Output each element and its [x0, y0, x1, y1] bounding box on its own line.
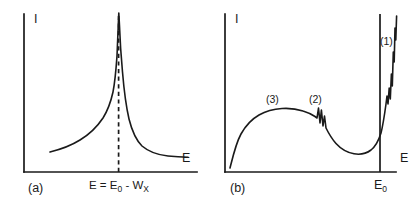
- panel-b-feature-1-label: (1): [380, 35, 393, 47]
- panel-a: I E E = E0 - WX (a): [0, 0, 208, 202]
- panel-b-y-axis-label: I: [235, 12, 238, 26]
- e0-base: E: [374, 178, 382, 192]
- panel-a-x-axis-label: E: [182, 151, 190, 165]
- panel-a-y-axis-label: I: [34, 12, 37, 26]
- panel-b-curve: [230, 16, 397, 168]
- panel-b-x-tick-label-e0: E0: [374, 178, 387, 194]
- equation-mid: - W: [122, 179, 143, 191]
- panel-a-caption: (a): [28, 181, 43, 195]
- panel-b-caption: (b): [230, 181, 245, 195]
- e0-subscript: 0: [382, 184, 387, 194]
- panel-a-marker-equation-label: E = E0 - WX: [89, 179, 149, 194]
- equation-lead: E = E: [89, 179, 118, 191]
- panel-b: (1) (2) (3) I E E0 (b): [208, 0, 416, 202]
- figure-container: I E E = E0 - WX (a) (1) (2) (3): [0, 0, 416, 202]
- panel-b-feature-2-label: (2): [309, 93, 322, 105]
- panel-b-x-axis-label: E: [400, 151, 408, 165]
- panel-b-plot: (1) (2) (3) I E E0 (b): [208, 0, 416, 202]
- panel-a-plot: I E E = E0 - WX (a): [0, 0, 208, 202]
- panel-b-feature-3-label: (3): [266, 93, 279, 105]
- equation-sub-x: X: [143, 184, 149, 194]
